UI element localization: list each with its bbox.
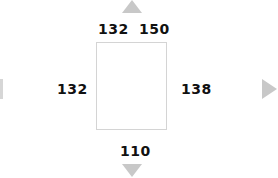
top-left-value: 132 <box>98 22 129 36</box>
arrow-right-icon[interactable] <box>262 79 277 99</box>
top-right-value: 150 <box>139 22 170 36</box>
right-value: 138 <box>181 82 212 96</box>
arrow-up-icon[interactable] <box>122 0 142 13</box>
bottom-value: 110 <box>120 144 151 158</box>
left-value: 132 <box>57 82 88 96</box>
frame-box <box>96 42 167 130</box>
arrow-left-icon[interactable] <box>0 79 3 99</box>
arrow-down-icon[interactable] <box>122 164 142 177</box>
